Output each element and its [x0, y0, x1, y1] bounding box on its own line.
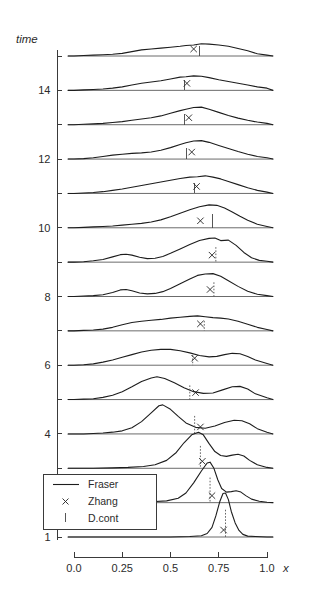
svg-text:0.5: 0.5: [163, 562, 178, 574]
svg-text:0.25: 0.25: [112, 562, 133, 574]
svg-text:8: 8: [44, 291, 50, 303]
y-axis-title: time: [16, 33, 38, 45]
legend-label-fraser: Fraser: [88, 478, 119, 490]
legend-label-zhang: Zhang: [88, 495, 118, 507]
svg-text:12: 12: [38, 153, 50, 165]
density-ridgeline-figure: time 12468101214 Fraser Zhang D.cont 0.0…: [0, 0, 326, 609]
chart-canvas: time 12468101214 Fraser Zhang D.cont 0.0…: [0, 0, 326, 609]
svg-text:4: 4: [44, 428, 50, 440]
legend-label-dcont: D.cont: [88, 512, 118, 524]
svg-text:0.0: 0.0: [66, 562, 81, 574]
chart-legend: Fraser Zhang D.cont: [44, 475, 157, 530]
svg-text:1.0: 1.0: [259, 562, 274, 574]
svg-text:14: 14: [38, 84, 50, 96]
svg-text:10: 10: [38, 222, 50, 234]
svg-text:6: 6: [44, 359, 50, 371]
svg-text:0.75: 0.75: [208, 562, 229, 574]
svg-text:1: 1: [44, 531, 50, 543]
